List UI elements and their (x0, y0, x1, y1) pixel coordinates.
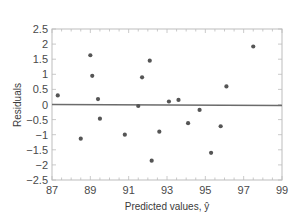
y-tick-label: −2 (35, 159, 48, 171)
x-axis-title: Predicted values, ŷ (125, 201, 210, 212)
y-tick-label: 2 (42, 38, 48, 50)
data-point (224, 84, 228, 88)
x-tick-label: 95 (199, 184, 211, 196)
zero-reference-line (52, 105, 282, 106)
x-tick-label: 99 (276, 184, 288, 196)
x-tick-label: 97 (238, 184, 250, 196)
data-point (140, 75, 144, 79)
y-tick-label: 1 (42, 68, 48, 80)
x-tick-label: 91 (123, 184, 135, 196)
data-point (98, 117, 102, 121)
data-point (219, 124, 223, 128)
y-axis-ticks: 2.521.510.50−0.5−1−1.5−2−2.5 (26, 23, 48, 186)
residual-plot: 2.521.510.50−0.5−1−1.5−2−2.5 87899193959… (0, 0, 304, 218)
y-tick-label: 1.5 (33, 53, 48, 65)
x-tick-label: 89 (84, 184, 96, 196)
data-point (88, 53, 92, 57)
data-point (197, 108, 201, 112)
data-point (176, 98, 180, 102)
data-point (157, 130, 161, 134)
x-tick-label: 87 (46, 184, 58, 196)
data-point (251, 44, 255, 48)
y-tick-label: 0.5 (33, 83, 48, 95)
y-tick-label: 0 (42, 99, 48, 111)
data-point (79, 137, 83, 141)
x-tick-label: 93 (161, 184, 173, 196)
data-point (186, 121, 190, 125)
y-tick-label: −0.5 (26, 114, 48, 126)
data-points (56, 44, 256, 162)
data-point (209, 151, 213, 155)
data-point (96, 97, 100, 101)
data-point (123, 133, 127, 137)
x-axis-ticks: 87899193959799 (46, 184, 288, 196)
data-point (150, 159, 154, 163)
y-tick-label: −2.5 (26, 174, 48, 186)
data-point (167, 99, 171, 103)
data-point (56, 93, 60, 97)
y-axis-title: Residuals (12, 83, 23, 127)
data-point (148, 59, 152, 63)
data-point (136, 104, 140, 108)
y-tick-label: 2.5 (33, 23, 48, 35)
y-tick-label: −1 (35, 129, 48, 141)
y-tick-label: −1.5 (26, 144, 48, 156)
data-point (90, 74, 94, 78)
